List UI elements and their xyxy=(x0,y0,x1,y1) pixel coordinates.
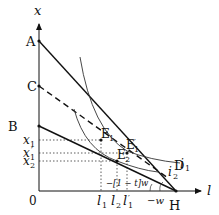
y-axis-label: x xyxy=(34,3,42,18)
svg-text:2: 2 xyxy=(30,161,35,170)
point-A-label: A xyxy=(25,34,36,49)
slope-annotation: −[1 − t]w xyxy=(106,178,149,188)
diagram-canvas: x l 0 A C B D H E 1 E ′ 1 E 2 x 1 x ′ 1 … xyxy=(0,0,219,215)
svg-text:1: 1 xyxy=(134,145,139,154)
svg-text:x: x xyxy=(23,133,30,147)
svg-text:i: i xyxy=(180,157,184,171)
svg-text:1: 1 xyxy=(185,164,190,173)
svg-text:l: l xyxy=(123,193,127,208)
svg-text:1: 1 xyxy=(128,201,133,210)
tick-l1-prime: l ′ 1 xyxy=(123,193,133,210)
svg-text:2: 2 xyxy=(125,155,130,164)
point-B-label: B xyxy=(8,119,18,134)
tick-neg-w: −w xyxy=(147,195,164,206)
point-C-label: C xyxy=(27,79,37,94)
origin-label: 0 xyxy=(29,194,37,208)
curve-i1-label: i 1 xyxy=(180,157,190,173)
svg-text:l: l xyxy=(97,193,101,208)
svg-text:2: 2 xyxy=(173,172,178,181)
angle-mark-2 xyxy=(150,184,152,191)
labor-supply-tax-diagram: x l 0 A C B D H E 1 E ′ 1 E 2 x 1 x ′ 1 … xyxy=(0,0,219,215)
point-E1-prime-label: E ′ 1 xyxy=(126,137,139,154)
svg-text:x: x xyxy=(23,154,30,168)
svg-text:2: 2 xyxy=(116,201,121,210)
tick-l1: l 1 xyxy=(97,193,107,210)
svg-text:l: l xyxy=(111,193,115,208)
svg-text:1: 1 xyxy=(102,201,107,210)
tick-l2: l 2 xyxy=(111,193,121,210)
svg-text:1: 1 xyxy=(109,134,114,143)
point-H-label: H xyxy=(169,198,180,213)
point-E1-label: E 1 xyxy=(101,127,114,143)
svg-text:i: i xyxy=(168,165,172,179)
x-axis-label: l xyxy=(207,183,211,198)
